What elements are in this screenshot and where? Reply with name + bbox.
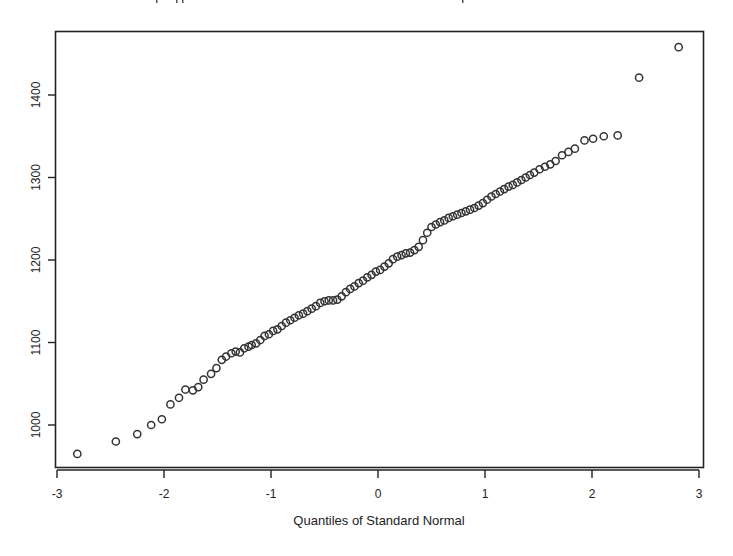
y-tick-label: 1000 [29,411,43,438]
x-tick-label: 2 [589,487,596,501]
title-descender [156,0,158,3]
plot-background [0,0,733,556]
x-tick-label: -3 [52,487,63,501]
x-tick-label: 0 [375,487,382,501]
title-descender [182,0,184,3]
y-tick-label: 1400 [29,81,43,108]
x-axis-title: Quantiles of Standard Normal [293,513,464,528]
x-tick-label: 3 [696,487,703,501]
x-tick-label: -2 [159,487,170,501]
x-tick-label: -1 [266,487,277,501]
title-descender [462,0,464,3]
qq-plot: -3-2-10123 10001100120013001400 Quantile… [0,0,733,556]
x-tick-label: 1 [482,487,489,501]
y-tick-label: 1300 [29,164,43,191]
title-descender [176,0,178,3]
y-tick-label: 1200 [29,246,43,273]
y-tick-label: 1100 [29,329,43,355]
